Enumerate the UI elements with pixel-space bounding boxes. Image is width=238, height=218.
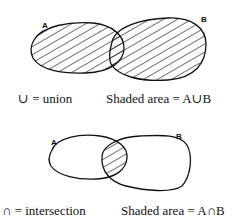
- intersection-venn: [49, 135, 190, 190]
- intersection-set-b-label: B: [176, 132, 182, 141]
- union-set-a-label: A: [42, 21, 48, 30]
- intersection-set-a-label: A: [51, 138, 57, 147]
- intersection-shaded-caption: Shaded area = A∩B: [121, 204, 225, 218]
- union-shaded-caption: Shaded area = A∪B: [106, 92, 211, 106]
- set-b-shape: [109, 18, 206, 80]
- venn-diagrams: [0, 0, 238, 218]
- union-venn: [31, 18, 206, 80]
- union-set-b-label: B: [201, 15, 207, 24]
- union-symbol-caption: ∪ = union: [18, 92, 72, 106]
- intersection-symbol-caption: ∩ = intersection: [2, 204, 86, 218]
